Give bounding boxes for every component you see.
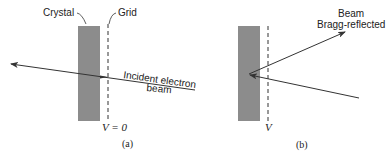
grid-label: Grid xyxy=(118,8,137,18)
grid-leader-a xyxy=(109,13,116,24)
incident-beam-label-line2: beam xyxy=(146,83,172,95)
caption-b: (b) xyxy=(296,140,308,150)
reflected-beam-b xyxy=(249,32,345,74)
incident-beam-b xyxy=(250,75,359,98)
panel-a xyxy=(11,13,195,121)
crystal-label: Crystal xyxy=(43,8,74,18)
reflected-beam-label-line1: Beam xyxy=(338,9,364,19)
panel-b xyxy=(238,26,359,124)
beam-arrowhead-grid-a xyxy=(100,76,108,79)
voltage-label-b: V xyxy=(265,122,272,133)
reflected-beam-label-line2: Bragg-reflected xyxy=(317,20,385,30)
electron-diffraction-figure: Crystal Grid Incident electron beam V = … xyxy=(0,0,389,157)
caption-a: (a) xyxy=(122,139,133,149)
crystal-leader-a xyxy=(77,13,86,24)
voltage-label-a: V = 0 xyxy=(102,122,127,133)
